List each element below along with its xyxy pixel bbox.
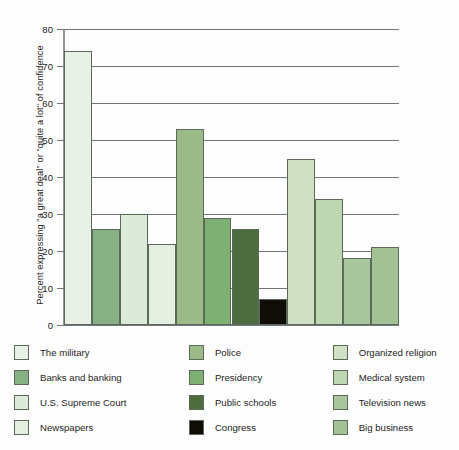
y-tick-label: 20: [42, 246, 53, 257]
y-tick-label: 80: [42, 24, 53, 35]
bar-congress: [259, 299, 287, 325]
y-tick-60: [57, 103, 64, 104]
legend-item-label: Banks and banking: [40, 372, 122, 383]
legend-item: U.S. Supreme Court: [14, 390, 189, 415]
bar-banks-and-banking: [92, 229, 120, 325]
legend-item: Newspapers: [14, 415, 189, 440]
y-tick-label: 40: [42, 172, 53, 183]
legend-item-label: Congress: [215, 422, 256, 433]
legend-item-label: Medical system: [359, 372, 425, 383]
y-tick-70: [57, 66, 64, 67]
legend-item: Public schools: [189, 390, 333, 415]
legend-item-label: Presidency: [215, 372, 262, 383]
bar-u-s-supreme-court: [120, 214, 148, 325]
bar-public-schools: [232, 229, 260, 325]
y-tick-0: [57, 325, 64, 326]
y-tick-label: 0: [48, 320, 53, 331]
legend-item: Television news: [333, 390, 459, 415]
legend-swatch-icon: [333, 345, 348, 360]
chart-legend: The militaryBanks and bankingU.S. Suprem…: [0, 340, 459, 450]
y-tick-label: 30: [42, 209, 53, 220]
bar-organized-religion: [287, 159, 315, 326]
y-tick-10: [57, 288, 64, 289]
plot-area: 80706050403020100: [64, 29, 399, 325]
legend-item: The military: [14, 340, 189, 365]
legend-item: Organized religion: [333, 340, 459, 365]
legend-swatch-icon: [189, 370, 204, 385]
bar-television-news: [343, 258, 371, 325]
legend-item-label: Public schools: [215, 397, 276, 408]
legend-swatch-icon: [14, 420, 29, 435]
legend-item-label: Police: [215, 347, 241, 358]
legend-swatch-icon: [333, 420, 348, 435]
legend-item: Congress: [189, 415, 333, 440]
legend-item-label: Newspapers: [40, 422, 93, 433]
legend-swatch-icon: [189, 345, 204, 360]
legend-item-label: Organized religion: [359, 347, 437, 358]
legend-column-2: PolicePresidencyPublic schoolsCongress: [189, 340, 333, 450]
legend-item-label: Television news: [359, 397, 426, 408]
chart-page: Percent expressing "a great deal" or "qu…: [0, 0, 459, 450]
legend-item-label: Big business: [359, 422, 413, 433]
y-tick-30: [57, 214, 64, 215]
legend-swatch-icon: [14, 345, 29, 360]
legend-swatch-icon: [189, 395, 204, 410]
bar-police: [176, 129, 204, 325]
bar-big-business: [371, 247, 399, 325]
legend-item: Police: [189, 340, 333, 365]
legend-column-3: Organized religionMedical systemTelevisi…: [333, 340, 459, 450]
bar-presidency: [204, 218, 232, 325]
legend-item: Presidency: [189, 365, 333, 390]
legend-item: Medical system: [333, 365, 459, 390]
legend-swatch-icon: [333, 370, 348, 385]
gridline-0: [64, 325, 399, 326]
legend-swatch-icon: [333, 395, 348, 410]
chart-area: Percent expressing "a great deal" or "qu…: [0, 0, 459, 340]
bar-medical-system: [315, 199, 343, 325]
y-tick-80: [57, 29, 64, 30]
y-tick-label: 10: [42, 283, 53, 294]
y-tick-40: [57, 177, 64, 178]
legend-item-label: U.S. Supreme Court: [40, 397, 126, 408]
legend-item-label: The military: [40, 347, 90, 358]
legend-item: Banks and banking: [14, 365, 189, 390]
legend-swatch-icon: [14, 370, 29, 385]
legend-item: Big business: [333, 415, 459, 440]
y-tick-label: 60: [42, 98, 53, 109]
legend-column-1: The militaryBanks and bankingU.S. Suprem…: [14, 340, 189, 450]
y-tick-label: 70: [42, 61, 53, 72]
bar-newspapers: [148, 244, 176, 325]
bar-the-military: [64, 51, 92, 325]
y-tick-50: [57, 140, 64, 141]
legend-swatch-icon: [189, 420, 204, 435]
y-tick-20: [57, 251, 64, 252]
legend-swatch-icon: [14, 395, 29, 410]
y-tick-label: 50: [42, 135, 53, 146]
bar-series: [64, 29, 399, 325]
